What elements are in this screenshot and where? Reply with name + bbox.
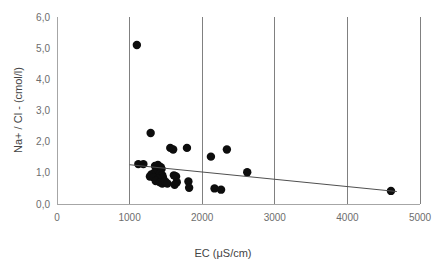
data-point [223, 145, 231, 153]
y-tick-label-4,0: 4,0 [36, 74, 50, 85]
chart-canvas: 010002000300040005000 0,01,02,03,04,05,0… [0, 0, 446, 264]
x-axis-tick-labels: 010002000300040005000 [54, 212, 431, 223]
y-tick-label-5,0: 5,0 [36, 43, 50, 54]
x-tick-label-4000: 4000 [336, 212, 359, 223]
data-point [163, 179, 171, 187]
data-point [139, 160, 147, 168]
y-tick-label-6,0: 6,0 [36, 12, 50, 23]
data-points [133, 41, 395, 195]
data-point [169, 145, 177, 153]
data-point [207, 152, 215, 160]
x-tick-label-3000: 3000 [264, 212, 287, 223]
data-point [170, 180, 178, 188]
scatter-chart: 010002000300040005000 0,01,02,03,04,05,0… [0, 0, 446, 264]
data-point [217, 185, 225, 193]
data-point [185, 184, 193, 192]
x-tick-label-5000: 5000 [409, 212, 432, 223]
data-point [133, 41, 141, 49]
y-tick-label-0,0: 0,0 [36, 199, 50, 210]
data-point [146, 129, 154, 137]
trend-line [130, 165, 397, 192]
data-point [243, 168, 251, 176]
y-tick-label-3,0: 3,0 [36, 105, 50, 116]
data-point [183, 144, 191, 152]
x-tick-label-0: 0 [54, 212, 60, 223]
y-tick-label-2,0: 2,0 [36, 136, 50, 147]
y-axis-title: Na+ / Cl - (cmol/l) [12, 67, 24, 153]
x-axis-title: EC (μS/cm) [194, 247, 251, 259]
trend-line-segment [130, 165, 397, 192]
x-tick-label-2000: 2000 [191, 212, 214, 223]
y-axis-tick-labels: 0,01,02,03,04,05,06,0 [36, 12, 50, 210]
y-tick-label-1,0: 1,0 [36, 167, 50, 178]
x-tick-label-1000: 1000 [118, 212, 141, 223]
